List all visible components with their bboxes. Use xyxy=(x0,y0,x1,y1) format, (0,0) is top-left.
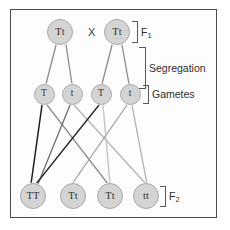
fertilization-edge-1 xyxy=(31,105,42,184)
f1-parent-2[interactable]: Tt xyxy=(104,19,130,45)
fertilization-edge-3 xyxy=(38,105,70,184)
f2-offspring-3[interactable]: Tt xyxy=(97,183,123,209)
f2-offspring-1[interactable]: TT xyxy=(20,183,46,209)
f2-bracket xyxy=(160,186,166,207)
f1-label-subscript: 1 xyxy=(147,31,151,40)
meiosis-edge-3 xyxy=(102,45,112,84)
f1-bracket xyxy=(132,21,138,43)
fertilization-edge-4 xyxy=(74,105,146,184)
f1-parent-1[interactable]: Tt xyxy=(47,19,73,45)
cross-symbol: X xyxy=(88,26,95,38)
gametes-label: Gametes xyxy=(152,88,195,100)
fertilization-edge-group xyxy=(31,105,147,184)
gamete-2[interactable]: t xyxy=(62,84,83,105)
f2-offspring-2[interactable]: Tt xyxy=(60,183,86,209)
gamete-3[interactable]: T xyxy=(91,84,112,105)
meiosis-edge-1 xyxy=(46,45,56,84)
f2-offspring-4[interactable]: tt xyxy=(133,183,159,209)
meiosis-edge-2 xyxy=(66,45,72,84)
fertilization-edge-5 xyxy=(36,105,99,184)
fertilization-edge-6 xyxy=(103,105,110,184)
fertilization-edge-8 xyxy=(132,105,147,184)
f2-label-subscript: 2 xyxy=(175,195,179,204)
segregation-bracket xyxy=(139,47,146,89)
segregation-label: Segregation xyxy=(149,62,206,74)
gametes-bracket xyxy=(143,85,149,104)
meiosis-edge-group xyxy=(46,45,129,84)
gamete-4[interactable]: t xyxy=(120,84,141,105)
gamete-1[interactable]: T xyxy=(34,84,55,105)
genetics-cross-diagram: Tt X Tt T t T t TT Tt Tt tt F1 Segregati… xyxy=(0,0,230,230)
f1-label: F1 xyxy=(141,26,152,38)
meiosis-edge-4 xyxy=(122,45,129,84)
f2-label: F2 xyxy=(169,190,180,202)
